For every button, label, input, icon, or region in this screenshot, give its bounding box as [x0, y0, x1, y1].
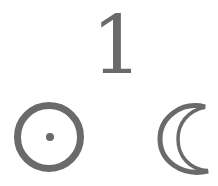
sun-icon — [10, 99, 90, 177]
crescent-moon-icon — [152, 99, 214, 179]
numeral-one: 1 — [0, 6, 218, 86]
